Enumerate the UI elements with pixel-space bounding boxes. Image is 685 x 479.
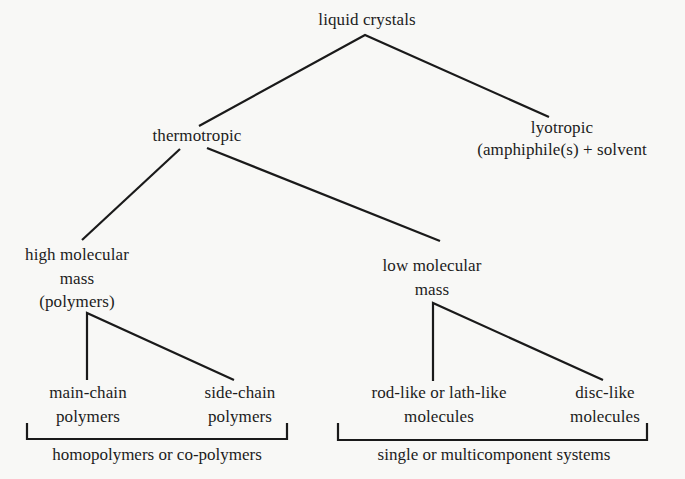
node-label: mass: [382, 278, 481, 302]
caption-homopolymers: homopolymers or co-polymers: [52, 445, 262, 465]
node-label: liquid crystals: [318, 8, 415, 32]
node-sublabel: (polymers): [25, 290, 129, 314]
node-lyotropic: lyotropic (amphiphile(s) + solvent: [477, 117, 647, 161]
node-label: molecules: [570, 405, 640, 429]
node-main-chain-polymers: main-chain polymers: [49, 381, 126, 428]
edge-high-mass-children: [87, 313, 234, 380]
node-rod-like-molecules: rod-like or lath-like molecules: [371, 381, 506, 428]
node-label: rod-like or lath-like: [371, 381, 506, 405]
node-label: high molecular: [25, 243, 129, 267]
node-label: lyotropic: [477, 117, 647, 139]
node-label: low molecular: [382, 254, 481, 278]
edge-low-mass-children: [433, 303, 603, 381]
node-label: thermotropic: [152, 124, 241, 148]
edge-thermotropic-low-mass: [207, 148, 440, 241]
node-side-chain-polymers: side-chain polymers: [205, 381, 276, 428]
node-high-molecular-mass: high molecular mass (polymers): [25, 243, 129, 314]
node-liquid-crystals: liquid crystals: [318, 8, 415, 32]
edge-root-thermotropic-lyotropic: [199, 35, 549, 126]
node-label: molecules: [371, 405, 506, 429]
node-label: main-chain: [49, 381, 126, 405]
node-label: polymers: [49, 405, 126, 429]
edge-thermotropic-high-mass: [82, 149, 180, 240]
node-disc-like-molecules: disc-like molecules: [570, 381, 640, 428]
node-label: polymers: [205, 405, 276, 429]
node-label: side-chain: [205, 381, 276, 405]
node-label: disc-like: [570, 381, 640, 405]
node-thermotropic: thermotropic: [152, 124, 241, 148]
node-label: mass: [25, 267, 129, 291]
caption-multicomponent-systems: single or multicomponent systems: [378, 445, 611, 465]
liquid-crystal-classification-diagram: liquid crystals thermotropic lyotropic (…: [0, 0, 685, 479]
node-sublabel: (amphiphile(s) + solvent: [477, 139, 647, 161]
node-low-molecular-mass: low molecular mass: [382, 254, 481, 301]
